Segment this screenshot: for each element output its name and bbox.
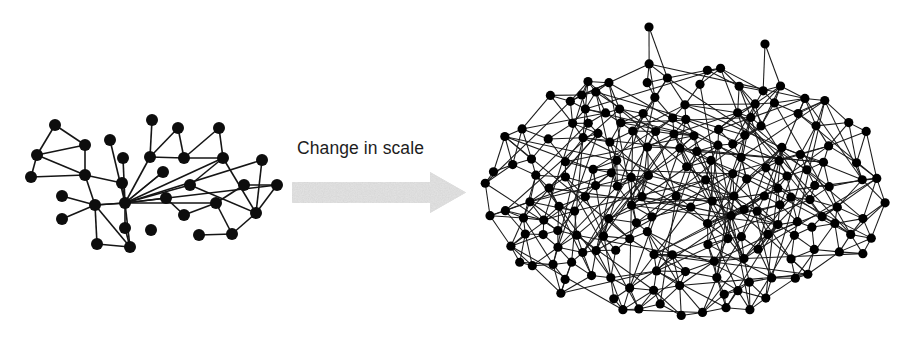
graph-node [675,281,684,290]
graph-node [506,242,515,251]
graph-node [669,129,678,138]
graph-node [761,293,770,302]
graph-node [663,73,672,82]
graph-node [649,286,658,295]
graph-edge [648,175,733,196]
graph-edge [685,104,755,105]
graph-edge [583,138,680,149]
graph-node [703,240,712,249]
graph-node [713,141,722,150]
graph-node [739,254,748,263]
graph-node [677,311,686,320]
graph-node [627,173,636,182]
graph-node [592,246,601,255]
graph-node [703,219,712,228]
graph-node [637,192,646,201]
graph-node [489,167,498,176]
graph-node [544,134,553,143]
dense-network-graphic [0,0,922,363]
graph-node [773,184,782,193]
graph-node [583,77,592,86]
graph-node [581,104,590,113]
graph-node [802,165,811,174]
graph-node [746,113,755,122]
graph-edge [685,272,716,278]
graph-node [625,234,634,243]
graph-edge [609,64,649,83]
graph-node [745,278,754,287]
graph-edge [829,146,857,163]
graph-node [625,283,634,292]
graph-node [811,121,820,130]
graph-edge [805,98,862,179]
graph-node [767,273,776,282]
graph-node [561,172,570,181]
graph-node [790,231,799,240]
graph-node [846,230,855,239]
graph-node [729,191,738,200]
graph-node [578,248,587,257]
graph-node [810,245,819,254]
graph-node [825,182,834,191]
graph-node [650,93,659,102]
graph-node [601,108,610,117]
graph-node [672,192,681,201]
graph-node [803,270,812,279]
graph-node [735,82,744,91]
graph-node [604,78,613,87]
graph-node [647,212,656,221]
graph-edge [617,78,668,160]
graph-node [805,195,814,204]
graph-node [500,132,509,141]
graph-node [753,207,762,216]
graph-node [777,143,786,152]
graph-node [835,247,844,256]
graph-node [681,115,690,124]
graph-node [740,205,749,214]
graph-node [581,192,590,201]
graph-node [515,258,524,267]
graph-node [830,219,839,228]
graph-node [858,249,867,258]
graph-node [775,200,784,209]
graph-node [686,203,695,212]
graph-node [553,226,562,235]
graph-node [880,198,889,207]
graph-node [675,144,684,153]
graph-node [852,158,861,167]
graph-node [751,99,760,108]
graph-node [593,129,602,138]
graph-node [737,153,746,162]
graph-edge [548,138,583,139]
graph-node [706,156,715,165]
graph-node [682,162,691,171]
graph-node [818,212,827,221]
graph-edge [765,44,781,86]
graph-node [723,234,732,243]
graph-node [756,121,765,130]
graph-node [518,124,527,133]
graph-node [548,260,557,269]
graph-node [763,230,772,239]
graph-node [782,171,791,180]
graph-node [773,220,782,229]
graph-node [733,108,742,117]
graph-node [578,133,587,142]
graph-node [485,211,494,220]
graph-edge [825,101,849,123]
graph-node [606,273,615,282]
graph-node [776,81,785,90]
graph-node [721,303,730,312]
graph-node [728,169,737,178]
graph-node [820,96,829,105]
graph-edge [485,183,490,215]
graph-node [643,142,652,151]
graph-node [794,109,803,118]
graph-node [649,250,658,259]
graph-node [720,290,729,299]
graph-node [508,160,517,169]
graph-node [525,197,534,206]
graph-node [539,230,548,239]
graph-node [577,90,586,99]
graph-node [712,273,721,282]
